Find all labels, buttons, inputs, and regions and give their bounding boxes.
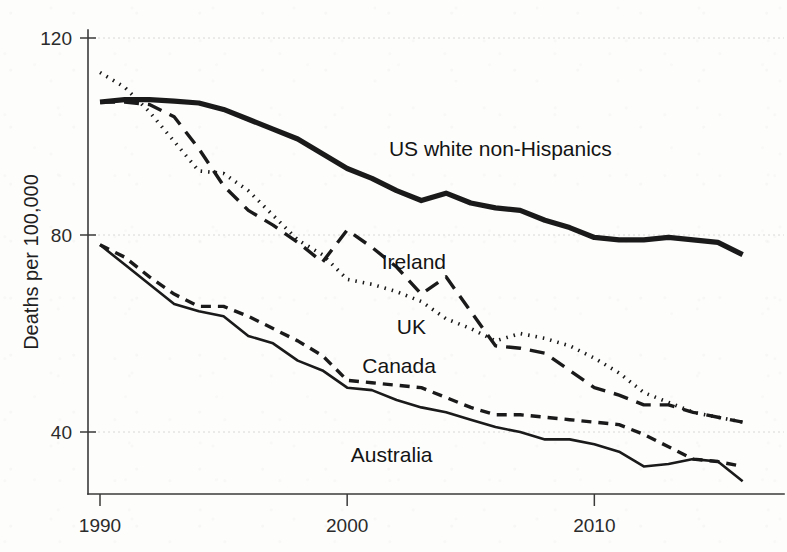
series-line-us-white-non-hispanics: [100, 100, 743, 255]
x-tick-label-2010: 2010: [573, 515, 615, 536]
series-lines: [100, 72, 743, 481]
series-label-ireland: Ireland: [382, 250, 446, 273]
x-tick-label-2000: 2000: [326, 515, 368, 536]
y-axis-title: Deaths per 100,000: [20, 174, 42, 350]
axis-tick-labels: 4080120199020002010: [40, 28, 615, 536]
series-label-uk: UK: [397, 315, 426, 338]
y-tick-label-80: 80: [51, 225, 72, 246]
series-label-canada: Canada: [362, 354, 436, 377]
line-chart-svg: 4080120199020002010 US white non-Hispani…: [0, 0, 787, 552]
x-tick-label-1990: 1990: [79, 515, 121, 536]
chart-figure: 4080120199020002010 US white non-Hispani…: [0, 0, 787, 552]
y-tick-label-120: 120: [40, 28, 72, 49]
series-label-australia: Australia: [351, 443, 433, 466]
y-tick-label-40: 40: [51, 422, 72, 443]
gridlines: [88, 38, 784, 432]
series-label-us-white-non-hispanics: US white non-Hispanics: [389, 137, 612, 160]
